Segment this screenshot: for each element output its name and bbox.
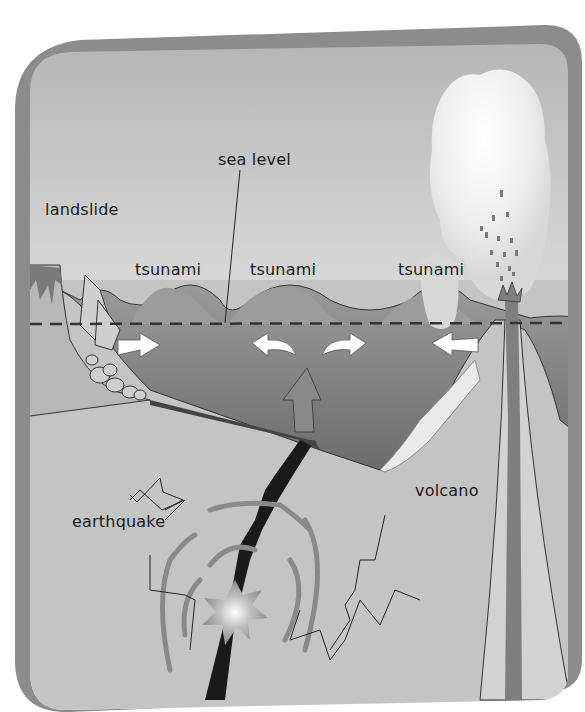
earthquake-zigzag-icon [125, 470, 195, 515]
label-tsunami-right: tsunami [398, 260, 464, 279]
label-landslide: landslide [45, 200, 119, 219]
label-tsunami-left: tsunami [135, 260, 201, 279]
tsunami-causes-diagram [0, 0, 585, 712]
label-sea-level: sea level [218, 150, 291, 169]
label-volcano: volcano [415, 481, 479, 500]
label-tsunami-middle: tsunami [250, 260, 316, 279]
